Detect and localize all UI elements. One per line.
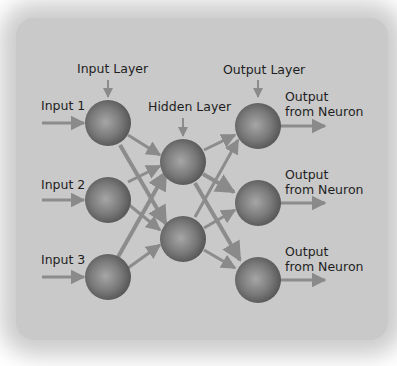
edge-i3-h2	[128, 245, 160, 268]
output-3-label: Output from Neuron	[285, 244, 363, 274]
output-1-line1: Output	[285, 89, 363, 104]
edge-h2-o3	[204, 250, 235, 268]
input-1-label: Input 1	[41, 98, 85, 113]
input-3-label: Input 3	[41, 252, 85, 267]
hidden-neuron-2	[160, 216, 206, 262]
hidden-layer-label: Hidden Layer	[148, 99, 231, 114]
output-2-line1: Output	[285, 167, 363, 182]
output-1-line2: from Neuron	[285, 104, 363, 119]
output-3-line2: from Neuron	[285, 259, 363, 274]
diagram-frame: Input Layer Hidden Layer Output Layer In…	[0, 0, 397, 366]
input-layer-label: Input Layer	[77, 61, 148, 76]
output-neuron-2	[235, 180, 281, 226]
output-neuron-1	[235, 103, 281, 149]
input-neuron-1	[85, 100, 131, 146]
output-2-label: Output from Neuron	[285, 167, 363, 197]
edge-i1-h1	[128, 135, 160, 155]
output-1-label: Output from Neuron	[285, 89, 363, 119]
input-neuron-3	[85, 254, 131, 300]
input-2-label: Input 2	[41, 177, 85, 192]
input-neuron-2	[85, 177, 131, 223]
hidden-neuron-1	[160, 139, 206, 185]
output-neuron-3	[235, 257, 281, 303]
edge-h1-o1	[204, 135, 235, 150]
output-2-line2: from Neuron	[285, 182, 363, 197]
output-3-line1: Output	[285, 244, 363, 259]
output-layer-label: Output Layer	[223, 62, 305, 77]
